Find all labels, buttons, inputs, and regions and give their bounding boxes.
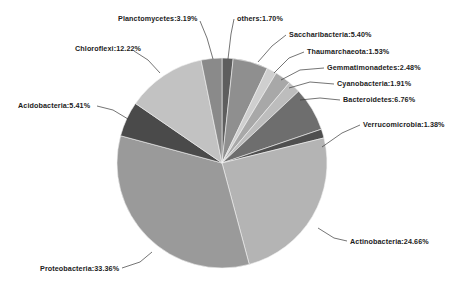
- label-bacteroidetes: Bacteroidetes:6.76%: [343, 95, 415, 104]
- label-actinobacteria: Actinobacteria:24.66%: [350, 237, 429, 246]
- pie-chart-svg: [0, 0, 465, 308]
- label-saccharibacteria: Saccharibacteria:5.40%: [289, 30, 372, 39]
- leader-line-bacteroidetes: [300, 98, 340, 100]
- label-verrucomicrobia: Verrucomicrobia:1.38%: [363, 120, 445, 129]
- label-acidobacteria: Acidobacteria:5.41%: [18, 101, 90, 110]
- leader-line-planctomycetes: [200, 21, 213, 59]
- label-cyanobacteria: Cyanobacteria:1.91%: [337, 79, 411, 88]
- label-thaumarchaeota: Thaumarchaeota:1.53%: [307, 47, 389, 56]
- leader-line-cyanobacteria: [289, 82, 334, 88]
- leader-line-acidobacteria: [97, 106, 128, 119]
- leader-line-others: [228, 19, 234, 59]
- leader-line-verrucomicrobia: [322, 125, 360, 147]
- label-proteobacteria: Proteobacteria:33.36%: [40, 264, 119, 273]
- label-others: others:1.70%: [237, 14, 283, 23]
- leader-line-thaumarchaeota: [274, 52, 304, 73]
- leader-line-chloroflexi: [134, 51, 160, 73]
- label-planctomycetes: Planctomycetes:3.19%: [118, 14, 198, 23]
- label-gemmatimonadetes: Gemmatimonadetes:2.48%: [327, 63, 421, 72]
- leader-line-proteobacteria: [122, 252, 152, 268]
- pie-slices-group: [117, 58, 327, 268]
- leader-line-actinobacteria: [318, 228, 347, 241]
- leader-line-saccharibacteria: [258, 35, 286, 62]
- leader-line-gemmatimonadetes: [281, 68, 324, 80]
- label-chloroflexi: Chloroflexi:12.22%: [75, 44, 141, 53]
- pie-chart-figure: Planctomycetes:3.19% others:1.70% Saccha…: [0, 0, 465, 308]
